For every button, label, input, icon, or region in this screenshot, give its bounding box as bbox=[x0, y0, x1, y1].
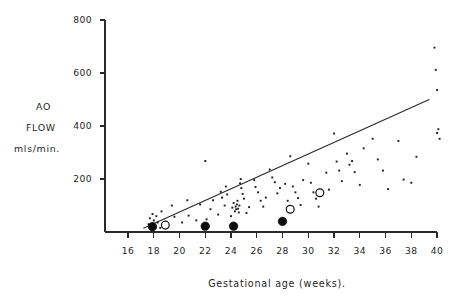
x-axis-title-text: Gestational age (weeks). bbox=[208, 278, 346, 289]
data-point bbox=[287, 200, 289, 202]
data-point bbox=[231, 207, 233, 209]
data-point bbox=[315, 198, 317, 200]
data-point bbox=[161, 221, 169, 229]
data-point bbox=[436, 89, 438, 91]
data-point bbox=[377, 158, 379, 160]
data-point bbox=[233, 202, 235, 204]
data-point bbox=[437, 128, 439, 130]
data-point bbox=[153, 219, 155, 221]
x-tick-label-32: 32 bbox=[328, 245, 341, 256]
data-point bbox=[238, 205, 240, 207]
data-point bbox=[279, 187, 281, 189]
x-tick-label-30: 30 bbox=[302, 245, 315, 256]
data-point bbox=[297, 197, 299, 199]
data-point bbox=[204, 160, 206, 162]
data-point bbox=[262, 206, 264, 208]
data-point bbox=[224, 205, 226, 207]
data-point bbox=[217, 214, 219, 216]
x-tick-label-20: 20 bbox=[173, 245, 186, 256]
data-point bbox=[237, 200, 239, 202]
data-point bbox=[181, 222, 183, 224]
data-point bbox=[313, 191, 315, 193]
data-point bbox=[242, 193, 244, 195]
x-tick-label-24: 24 bbox=[225, 245, 238, 256]
data-point bbox=[238, 211, 240, 213]
data-point bbox=[351, 160, 353, 162]
data-point bbox=[235, 206, 237, 208]
data-point bbox=[246, 212, 248, 214]
data-point bbox=[236, 204, 238, 206]
axes bbox=[105, 20, 437, 232]
data-point bbox=[243, 198, 245, 200]
x-tick-label-22: 22 bbox=[199, 245, 212, 256]
data-point bbox=[269, 169, 271, 171]
data-point bbox=[328, 189, 330, 191]
x-tick-label-40: 40 bbox=[431, 245, 444, 256]
data-point bbox=[257, 191, 259, 193]
data-points bbox=[148, 47, 441, 231]
y-axis-ticks: 200400600800 bbox=[73, 14, 105, 184]
data-point bbox=[229, 222, 237, 230]
data-point bbox=[225, 186, 227, 188]
data-point bbox=[300, 204, 302, 206]
data-point bbox=[255, 186, 257, 188]
data-point bbox=[274, 181, 276, 183]
data-point bbox=[239, 182, 241, 184]
data-point bbox=[157, 222, 159, 224]
y-tick-label-400: 400 bbox=[73, 120, 92, 131]
x-tick-label-26: 26 bbox=[251, 245, 264, 256]
data-point bbox=[354, 171, 356, 173]
y-tick-label-600: 600 bbox=[73, 67, 92, 78]
data-point bbox=[186, 199, 188, 201]
data-point bbox=[240, 178, 242, 180]
data-point bbox=[286, 205, 294, 213]
data-point bbox=[410, 182, 412, 184]
x-tick-label-28: 28 bbox=[276, 245, 289, 256]
data-point bbox=[436, 132, 438, 134]
data-point bbox=[237, 208, 239, 210]
data-point bbox=[278, 217, 286, 225]
y-tick-label-200: 200 bbox=[73, 173, 92, 184]
data-point bbox=[235, 208, 237, 210]
data-point bbox=[152, 213, 154, 215]
data-point bbox=[333, 133, 335, 135]
data-point bbox=[336, 161, 338, 163]
data-point bbox=[341, 180, 343, 182]
x-tick-label-36: 36 bbox=[379, 245, 392, 256]
x-tick-label-16: 16 bbox=[122, 245, 135, 256]
data-point bbox=[284, 183, 286, 185]
data-point bbox=[349, 164, 351, 166]
data-point bbox=[416, 156, 418, 158]
data-point bbox=[403, 179, 405, 181]
data-point bbox=[265, 197, 267, 199]
data-point bbox=[260, 200, 262, 202]
data-point bbox=[316, 189, 324, 197]
data-point bbox=[220, 191, 222, 193]
data-point bbox=[234, 210, 236, 212]
data-point bbox=[435, 69, 437, 71]
data-point bbox=[382, 170, 384, 172]
data-point bbox=[195, 219, 197, 221]
data-point bbox=[294, 191, 296, 193]
data-point bbox=[173, 216, 175, 218]
x-axis-ticks: 16182022242628303234363840 bbox=[122, 232, 444, 256]
data-point bbox=[276, 192, 278, 194]
data-point bbox=[359, 184, 361, 186]
x-tick-label-18: 18 bbox=[148, 245, 161, 256]
data-point bbox=[397, 140, 399, 142]
data-point bbox=[240, 187, 242, 189]
data-point bbox=[292, 186, 294, 188]
data-point bbox=[307, 163, 309, 165]
data-point bbox=[439, 138, 441, 140]
data-point bbox=[338, 170, 340, 172]
data-point bbox=[161, 210, 163, 212]
data-point bbox=[199, 204, 201, 206]
data-point bbox=[149, 217, 151, 219]
y-tick-label-800: 800 bbox=[73, 14, 92, 25]
data-point bbox=[289, 155, 291, 157]
data-point bbox=[318, 206, 320, 208]
data-point bbox=[372, 138, 374, 140]
data-point bbox=[387, 188, 389, 190]
data-point bbox=[310, 182, 312, 184]
data-point bbox=[201, 222, 209, 230]
